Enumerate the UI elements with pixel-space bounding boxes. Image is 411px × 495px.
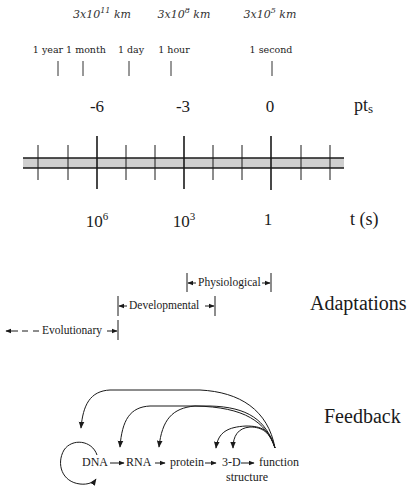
- node-structure: structure: [226, 470, 268, 485]
- node-dna: DNA: [82, 455, 108, 470]
- node-3d: 3-D: [222, 455, 241, 470]
- developmental-label: Developmental: [128, 299, 200, 311]
- node-rna: RNA: [126, 455, 151, 470]
- feedback-title: Feedback: [324, 405, 401, 428]
- adaptations-title: Adaptations: [310, 292, 407, 315]
- node-protein: protein: [170, 455, 204, 470]
- physiological-label: Physiological: [197, 276, 262, 288]
- node-function: function: [259, 455, 299, 470]
- evolutionary-label: Evolutionary: [41, 324, 103, 336]
- time-marker-ticks: [58, 61, 272, 76]
